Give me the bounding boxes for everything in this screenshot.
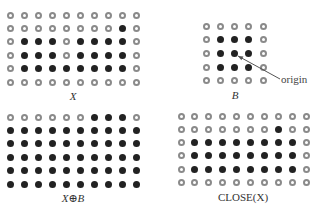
origin-arrow-icon <box>0 0 317 213</box>
